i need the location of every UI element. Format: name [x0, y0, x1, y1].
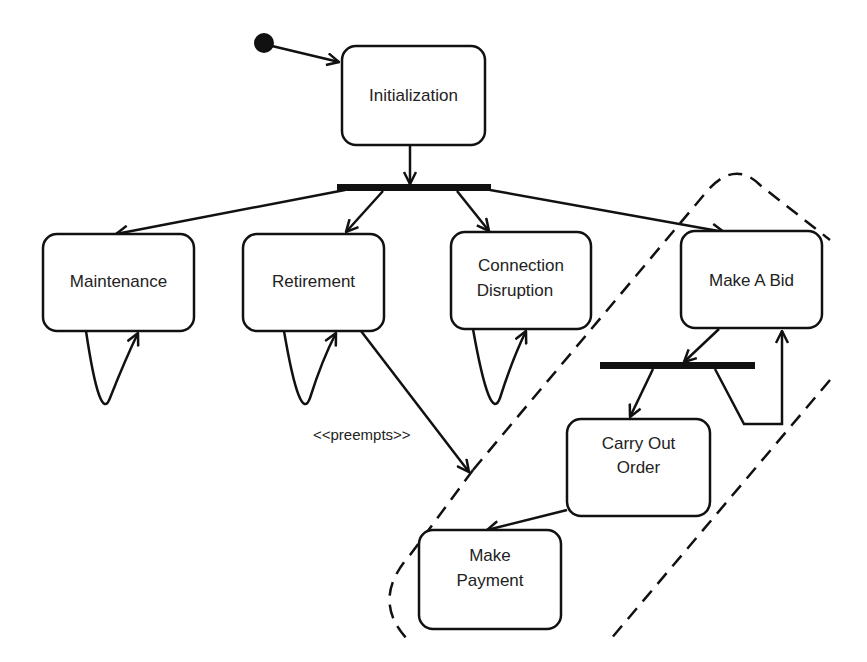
edge-retirement-preempts: [361, 331, 469, 472]
fork-bar-1: [337, 184, 491, 191]
initial-state-node: [254, 33, 274, 53]
edge-fork-to-maintenance: [116, 190, 345, 234]
label-make-a-bid: Make A Bid: [681, 271, 822, 291]
label-retirement: Retirement: [243, 272, 384, 292]
edge-make-a-bid-to-fork: [684, 329, 719, 362]
label-carry-out-order-line2: Order: [567, 458, 710, 478]
edge-fork-to-connection-disruption: [457, 191, 489, 231]
label-connection-line1: Connection: [451, 256, 591, 276]
edge-fork2-loop-to-make-a-bid: [715, 331, 782, 424]
label-initialization: Initialization: [342, 86, 485, 106]
edge-fork-to-make-a-bid: [490, 190, 724, 232]
preempts-stereotype-label: <<preempts>>: [313, 426, 411, 443]
label-make-payment-line1: Make: [419, 546, 561, 566]
self-loop-connection-disruption: [473, 329, 526, 404]
label-carry-out-order-line1: Carry Out: [567, 434, 710, 454]
self-loop-maintenance: [86, 331, 138, 404]
label-maintenance: Maintenance: [43, 272, 194, 292]
label-make-payment-line2: Payment: [419, 571, 561, 591]
edge-initial-to-initialization: [272, 46, 339, 62]
edge-fork-to-retirement: [346, 191, 383, 232]
fork-bar-2: [600, 362, 755, 369]
self-loop-retirement: [284, 331, 336, 404]
edge-fork2-to-carry-out-order: [630, 369, 653, 417]
edge-carry-out-order-to-make-payment: [487, 510, 567, 530]
label-connection-line2: Disruption: [445, 281, 585, 301]
